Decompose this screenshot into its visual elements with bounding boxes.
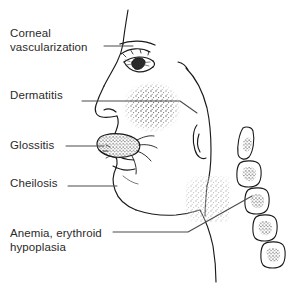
- label-corneal-line2: vascularization: [10, 41, 88, 53]
- forehead-line: [123, 10, 128, 44]
- label-dermatitis: Dermatitis: [10, 88, 63, 102]
- vertebral-column: [237, 127, 285, 268]
- tongue-body: [97, 134, 140, 158]
- tongue-fissure-4: [132, 156, 136, 174]
- upper-eyelid-crease: [121, 49, 150, 54]
- eyebrow: [120, 41, 155, 45]
- label-cheilosis: Cheilosis: [10, 176, 58, 190]
- label-anemia-erythroid-hypoplasia: Anemia, erythroid hypoplasia: [10, 226, 102, 254]
- tongue-fissure-2: [139, 145, 157, 148]
- nostril: [104, 109, 116, 112]
- skull-back: [186, 68, 211, 186]
- label-corneal-vascularization: Corneal vascularization: [10, 26, 88, 54]
- tongue-fissure-3: [137, 151, 151, 161]
- ear-outer: [193, 125, 206, 159]
- dermatitis-patch: [122, 81, 184, 135]
- neck-shading: [186, 176, 230, 222]
- label-corneal-line1: Corneal: [10, 27, 51, 39]
- medical-illustration-figure: Corneal vascularization Dermatitis Gloss…: [0, 0, 300, 288]
- iris: [132, 58, 145, 70]
- chin-crease: [123, 176, 138, 184]
- ear-inner: [198, 134, 200, 152]
- tongue-fissure-1: [137, 136, 154, 140]
- nose-tip: [95, 86, 117, 117]
- label-glossitis: Glossitis: [10, 138, 54, 152]
- nose-bridge: [104, 44, 123, 86]
- chin-line: [113, 168, 136, 210]
- eye-outer-corner: [153, 61, 155, 67]
- label-anemia-line1: Anemia, erythroid: [10, 227, 102, 239]
- label-anemia-line2: hypoplasia: [10, 241, 66, 253]
